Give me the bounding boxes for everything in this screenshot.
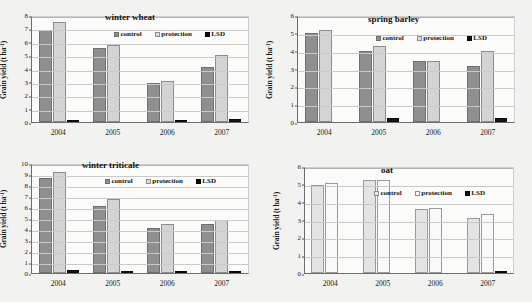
x-axis-tick-label: 2006 <box>409 279 462 288</box>
gridline <box>305 239 513 240</box>
bar-protection <box>429 208 442 273</box>
y-axis-tick-label: 3 <box>298 217 302 224</box>
x-axis-tick-label: 2007 <box>462 279 515 288</box>
legend-swatch-protection-icon <box>146 179 151 184</box>
gridline <box>32 187 248 188</box>
panel-winter-triticale: Grain yield (t ha-1) 012345678910 200420… <box>0 151 266 302</box>
y-axis-ticks: 012345678910 <box>15 164 28 274</box>
y-axis-tick-label: 8 <box>25 183 29 190</box>
chart-legend: control protection LSD <box>105 177 216 185</box>
chart-title: winter triticale <box>82 160 139 170</box>
gridline <box>298 53 514 54</box>
legend-swatch-control-icon <box>376 36 381 41</box>
bar-control <box>305 33 318 122</box>
y-axis-tick-label: 3 <box>25 79 29 86</box>
gridline <box>32 231 248 232</box>
y-axis-tick-label: 0 <box>25 271 29 278</box>
x-axis-ticks: 2004200520062007 <box>297 128 515 137</box>
gridline <box>32 165 248 166</box>
gridline <box>32 220 248 221</box>
legend-item-protection: protection <box>417 34 454 42</box>
gridline <box>298 71 514 72</box>
bar-protection <box>215 220 228 273</box>
x-axis-tick-label: 2006 <box>140 279 195 288</box>
y-axis-tick-label: 9 <box>25 172 29 179</box>
gridline <box>305 222 513 223</box>
bar-lsd <box>495 118 507 122</box>
x-axis-tick-label: 2005 <box>352 128 407 137</box>
bar-control <box>147 228 160 273</box>
panel-spring-barley: Grain yield (t ha-1) 0123456 20042005200… <box>266 0 532 151</box>
legend-label-protection: protection <box>161 30 192 38</box>
chart-title: oat <box>381 165 393 175</box>
panel-winter-wheat: Grain yield (t ha-1) 012345678 200420052… <box>0 0 266 151</box>
bar-lsd <box>67 120 79 122</box>
legend-item-lsd: LSD <box>465 189 485 197</box>
bar-protection <box>215 55 228 122</box>
bar-control <box>359 51 372 122</box>
x-axis-tick-label: 2006 <box>140 128 195 137</box>
x-axis-tick-label: 2004 <box>31 279 86 288</box>
bar-lsd <box>229 119 241 122</box>
bar-control <box>201 67 214 123</box>
y-axis-tick-label: 5 <box>291 30 295 37</box>
y-axis-tick-label: 2 <box>298 235 302 242</box>
y-axis-tick-label: 5 <box>298 181 302 188</box>
legend-swatch-control-icon <box>105 179 110 184</box>
legend-label-control: control <box>121 30 142 38</box>
y-axis-tick-label: 3 <box>291 66 295 73</box>
legend-label-lsd: LSD <box>473 34 487 42</box>
x-axis-tick-label: 2004 <box>304 279 357 288</box>
legend-label-protection: protection <box>421 189 452 197</box>
y-axis-tick-label: 6 <box>298 164 302 171</box>
legend-item-control: control <box>114 30 142 38</box>
tick-mark <box>302 274 305 275</box>
gridline <box>298 106 514 107</box>
bar-lsd <box>121 271 133 273</box>
legend-label-protection: protection <box>152 177 183 185</box>
bar-control <box>467 66 480 122</box>
bar-protection <box>481 214 494 273</box>
legend-label-control: control <box>383 34 404 42</box>
x-axis-tick-label: 2007 <box>461 128 516 137</box>
chart-legend: control protection LSD <box>376 34 487 42</box>
y-axis-tick-label: 2 <box>291 84 295 91</box>
gridline <box>32 84 248 85</box>
bar-control <box>93 206 106 273</box>
legend-swatch-lsd-icon <box>196 179 201 184</box>
y-axis-tick-label: 7 <box>25 194 29 201</box>
gridline <box>298 88 514 89</box>
x-axis-tick-label: 2006 <box>406 128 461 137</box>
y-axis-tick-label: 7 <box>25 26 29 33</box>
x-axis-tick-label: 2004 <box>297 128 352 137</box>
bar-lsd <box>175 120 187 122</box>
y-axis-ticks: 0123456 <box>281 16 294 123</box>
legend-item-protection: protection <box>146 177 183 185</box>
gridline <box>32 253 248 254</box>
gridline <box>32 111 248 112</box>
bar-lsd <box>67 270 79 273</box>
legend-item-control: control <box>374 189 402 197</box>
y-axis-tick-label: 2 <box>25 249 29 256</box>
y-axis-tick-label: 2 <box>25 93 29 100</box>
tick-mark <box>29 123 32 124</box>
x-axis-tick-label: 2007 <box>195 279 250 288</box>
y-axis-tick-label: 10 <box>21 161 28 168</box>
bar-control <box>415 209 428 273</box>
gridline <box>32 57 248 58</box>
x-axis-tick-label: 2004 <box>31 128 86 137</box>
legend-item-control: control <box>105 177 133 185</box>
y-axis-tick-label: 5 <box>25 53 29 60</box>
legend-swatch-control-icon <box>114 32 119 37</box>
legend-label-control: control <box>381 189 402 197</box>
y-axis-tick-label: 0 <box>298 271 302 278</box>
bar-lsd <box>495 271 507 273</box>
legend-label-protection: protection <box>423 34 454 42</box>
x-axis-ticks: 2004200520062007 <box>31 279 249 288</box>
gridline <box>305 168 513 169</box>
bar-control <box>311 185 324 273</box>
legend-item-protection: protection <box>415 189 452 197</box>
bar-control <box>467 218 480 273</box>
legend-swatch-lsd-icon <box>465 191 470 196</box>
legend-item-lsd: LSD <box>205 30 225 38</box>
